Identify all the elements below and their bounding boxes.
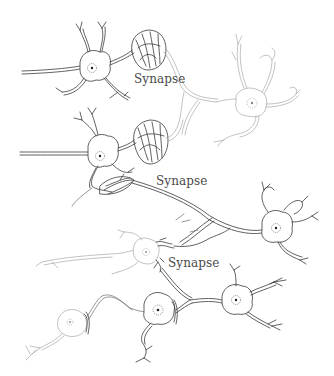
- neuron-6: [26, 295, 150, 360]
- neuron-illustration: [0, 0, 334, 376]
- neuron-3: [20, 108, 136, 206]
- neuron-8: [190, 264, 286, 330]
- neuron-4: [132, 180, 318, 264]
- neuron-diagram: Synapse Synapse Synapse: [0, 0, 334, 376]
- neuron-1: [22, 22, 134, 100]
- synapse-terminal-2: [134, 92, 184, 164]
- neuron-2: [164, 34, 300, 146]
- synapse-label-2: Synapse: [156, 175, 208, 187]
- synapse-label-1: Synapse: [134, 73, 186, 85]
- synapse-terminal-2b: [100, 177, 134, 195]
- synapse-label-3: Synapse: [168, 257, 220, 269]
- synapse-terminal-1: [132, 30, 166, 70]
- neuron-7: [136, 268, 192, 362]
